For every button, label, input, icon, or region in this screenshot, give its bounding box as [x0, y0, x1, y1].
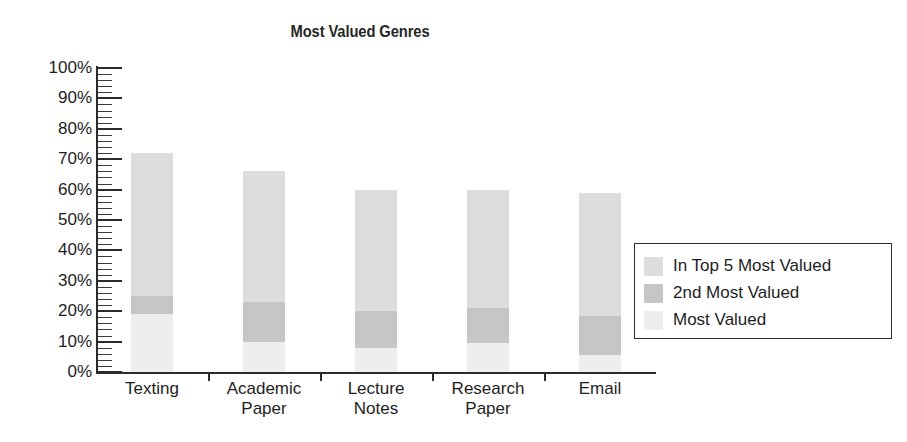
x-axis-category-label-line: Academic [199, 379, 329, 399]
x-axis-category-label-line: Lecture [311, 379, 441, 399]
bar-segment[interactable] [355, 311, 397, 347]
y-axis-tick-label: 0% [26, 363, 92, 380]
x-axis-category-label: LectureNotes [311, 379, 441, 419]
x-axis-category-label-line: Texting [87, 379, 217, 399]
y-axis-tick-label: 30% [26, 272, 92, 289]
y-axis-tick-label: 70% [26, 150, 92, 167]
bar-segment[interactable] [579, 193, 621, 316]
chart-legend: In Top 5 Most Valued2nd Most ValuedMost … [634, 243, 892, 339]
bar-segment[interactable] [579, 355, 621, 372]
bar-segment[interactable] [467, 308, 509, 343]
bar-segment[interactable] [355, 348, 397, 372]
x-axis-category-label: ResearchPaper [423, 379, 553, 419]
y-axis-tick-label: 10% [26, 333, 92, 350]
bar-column[interactable] [467, 68, 509, 372]
legend-item[interactable]: In Top 5 Most Valued [644, 253, 831, 279]
bar-column[interactable] [355, 68, 397, 372]
bar-segment[interactable] [243, 342, 285, 372]
y-axis-tick-label: 20% [26, 302, 92, 319]
y-axis-tick-label: 100% [26, 59, 92, 76]
x-axis-category-label: Texting [87, 379, 217, 399]
x-axis-category-label-line: Paper [423, 399, 553, 419]
x-axis-category-label: Email [535, 379, 665, 399]
bar-segment[interactable] [131, 296, 173, 314]
bar-segment[interactable] [131, 153, 173, 296]
legend-swatch-icon [644, 311, 663, 330]
legend-label: 2nd Most Valued [673, 283, 799, 303]
bar-segment[interactable] [355, 190, 397, 312]
x-axis-line [96, 372, 656, 374]
x-axis-category-label-line: Email [535, 379, 665, 399]
y-axis-tick-label: 50% [26, 211, 92, 228]
bar-segment[interactable] [467, 343, 509, 372]
bar-segment[interactable] [243, 302, 285, 342]
y-axis-labels: 0%10%20%30%40%50%60%70%80%90%100% [20, 0, 92, 442]
x-axis-category-label-line: Research [423, 379, 553, 399]
chart-container: Most Valued Genres 0%10%20%30%40%50%60%7… [0, 0, 907, 442]
plot-area [96, 68, 656, 372]
legend-swatch-icon [644, 284, 663, 303]
chart-title: Most Valued Genres [29, 23, 691, 41]
x-axis-category-label-line: Paper [199, 399, 329, 419]
legend-item[interactable]: Most Valued [644, 307, 766, 333]
bar-segment[interactable] [243, 171, 285, 302]
y-axis-tick-label: 60% [26, 181, 92, 198]
bar-column[interactable] [131, 68, 173, 372]
x-axis-category-label-line: Notes [311, 399, 441, 419]
bar-column[interactable] [579, 68, 621, 372]
y-axis-tick-label: 90% [26, 89, 92, 106]
legend-swatch-icon [644, 257, 663, 276]
y-axis-tick-label: 40% [26, 241, 92, 258]
bar-column[interactable] [243, 68, 285, 372]
bar-segment[interactable] [131, 314, 173, 372]
bar-segment[interactable] [579, 316, 621, 356]
legend-item[interactable]: 2nd Most Valued [644, 280, 799, 306]
y-axis-tick-label: 80% [26, 120, 92, 137]
x-axis-category-label: AcademicPaper [199, 379, 329, 419]
legend-label: Most Valued [673, 310, 766, 330]
bar-segment[interactable] [467, 190, 509, 309]
legend-label: In Top 5 Most Valued [673, 256, 831, 276]
